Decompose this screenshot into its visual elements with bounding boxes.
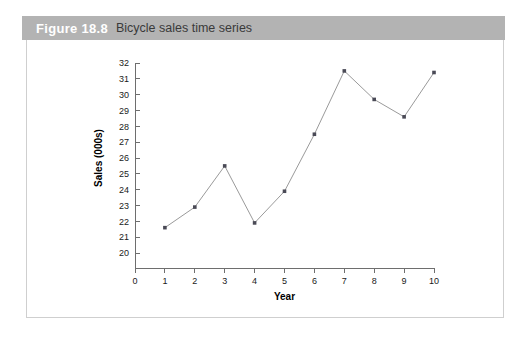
x-tick-label: 10 [429,276,439,286]
y-axis: 20212223242526272829303132 Sales (000s) [93,58,140,268]
x-tick-label: 2 [192,276,197,286]
series-markers [163,69,436,229]
data-point [372,98,376,102]
y-tick-label: 25 [119,169,129,179]
data-point [193,205,197,209]
data-series [163,69,436,229]
y-axis-title: Sales (000s) [93,129,104,187]
y-tick-label: 21 [119,232,129,242]
data-point [343,69,347,73]
x-tick-label: 9 [402,276,407,286]
data-point [313,132,317,136]
x-tick-label: 4 [252,276,257,286]
figure-number-label: Figure 18.8 [36,21,108,36]
y-tick-label: 22 [119,217,129,227]
x-tick-label: 3 [222,276,227,286]
series-line [165,71,434,228]
chart-container: 20212223242526272829303132 Sales (000s) … [26,40,504,318]
x-tick-label: 7 [342,276,347,286]
data-point [402,115,406,119]
x-tick-label: 5 [282,276,287,286]
data-point [223,164,227,168]
y-tick-label: 29 [119,106,129,116]
data-point [253,221,257,225]
y-tick-label: 20 [119,248,129,258]
y-tick-label: 23 [119,201,129,211]
figure-title-label: Bicycle sales time series [116,21,252,35]
data-point [432,71,436,75]
x-tick-label: 0 [132,276,137,286]
x-axis-title: Year [274,291,295,302]
y-axis-ticks: 20212223242526272829303132 [119,58,140,258]
x-tick-label: 8 [372,276,377,286]
y-tick-label: 27 [119,137,129,147]
data-point [163,226,167,230]
y-tick-label: 28 [119,122,129,132]
data-point [283,189,287,193]
y-tick-label: 31 [119,74,129,84]
y-tick-label: 32 [119,58,129,68]
x-tick-label: 6 [312,276,317,286]
figure-caption-bar: Figure 18.8 Bicycle sales time series [22,16,505,40]
y-tick-label: 30 [119,90,129,100]
x-axis-ticks: 012345678910 [132,268,439,286]
line-chart: 20212223242526272829303132 Sales (000s) … [26,40,504,318]
y-tick-label: 26 [119,153,129,163]
x-tick-label: 1 [162,276,167,286]
y-tick-label: 24 [119,185,129,195]
x-axis: 012345678910 Year [132,268,439,302]
